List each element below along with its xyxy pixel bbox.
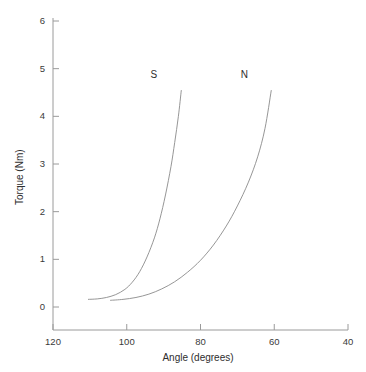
x-axis-title: Angle (degrees) [0, 352, 366, 363]
curve-s [88, 90, 181, 299]
x-tick-label: 100 [107, 336, 147, 347]
y-axis-title: Torque (Nm) [14, 149, 25, 205]
y-tick-label: 2 [23, 206, 45, 217]
x-tick-label: 40 [328, 336, 366, 347]
torque-angle-chart [0, 0, 366, 372]
data-curves [88, 90, 271, 300]
y-tick-label: 1 [23, 253, 45, 264]
y-tick-label: 5 [23, 63, 45, 74]
x-tick-marks [53, 324, 348, 330]
curve-n [110, 90, 271, 300]
x-tick-label: 60 [254, 336, 294, 347]
series-label-n: N [241, 69, 248, 80]
series-label-s: S [150, 69, 157, 80]
y-tick-label: 0 [23, 301, 45, 312]
y-tick-marks [53, 21, 59, 307]
x-tick-label: 80 [181, 336, 221, 347]
axis-lines [53, 18, 348, 330]
x-tick-label: 120 [33, 336, 73, 347]
y-tick-label: 4 [23, 110, 45, 121]
y-tick-label: 3 [23, 158, 45, 169]
y-tick-label: 6 [23, 15, 45, 26]
